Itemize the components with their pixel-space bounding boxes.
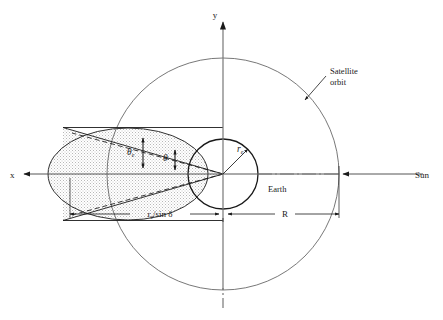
shadow-geometry-figure: y x Sun Satellite orbit Earth re θe θ re… xyxy=(0,0,443,320)
theta-label: θ xyxy=(163,153,168,163)
x-axis-label: x xyxy=(10,170,15,180)
satellite-orbit-label-line1: Satellite xyxy=(330,66,358,76)
satellite-orbit-label-line2: orbit xyxy=(330,77,347,87)
sun-label: Sun xyxy=(415,170,430,180)
y-axis-label: y xyxy=(213,10,218,20)
diagram-canvas: y x Sun Satellite orbit Earth re θe θ re… xyxy=(0,0,443,320)
earth-radius-arrow xyxy=(223,149,248,174)
satellite-orbit-leader xyxy=(305,76,326,100)
dimension-orbit-radius: R xyxy=(228,209,339,219)
dim-orbit-radius-label: R xyxy=(282,209,288,219)
earth-label: Earth xyxy=(268,184,287,194)
